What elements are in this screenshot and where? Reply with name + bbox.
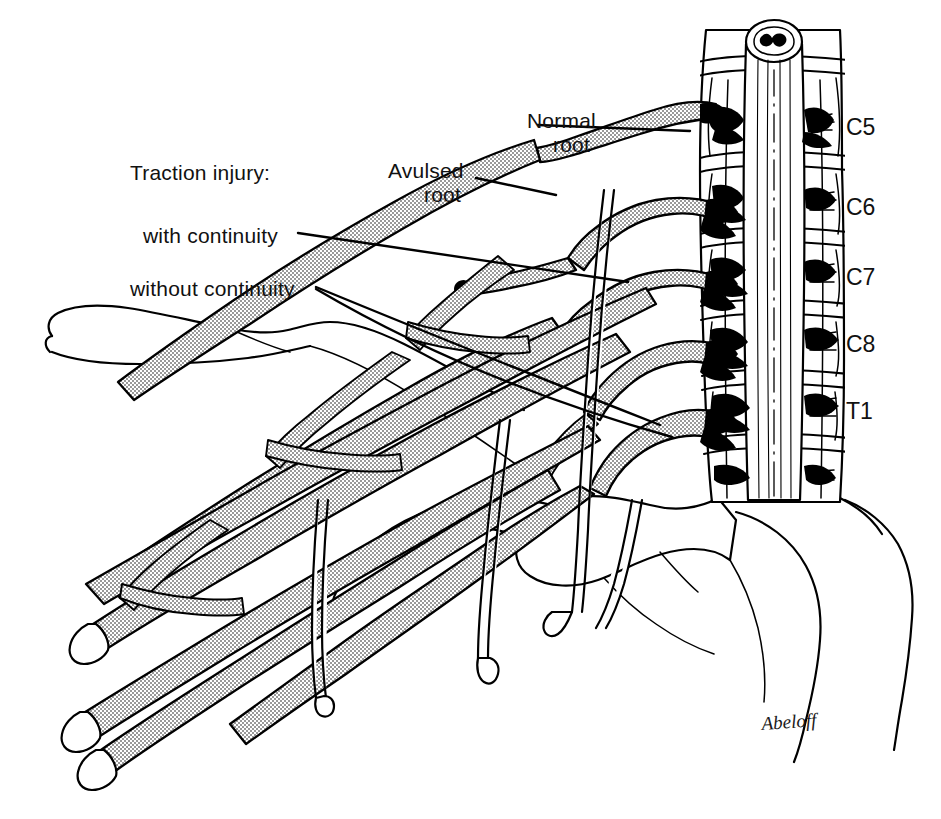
label-without-continuity: without continuity: [129, 277, 295, 300]
vertebra-label-t1: T1: [846, 398, 873, 424]
vertebra-label-c7: C7: [846, 264, 875, 290]
label-normal-root-line1: Normal: [527, 109, 596, 132]
label-avulsed-root-line2: root: [424, 183, 461, 206]
leader-avulsed-root: [476, 178, 556, 195]
traction-injury-heading: Traction injury:: [130, 161, 270, 184]
label-with-continuity: with continuity: [142, 224, 278, 247]
artist-signature: Abeloff: [759, 709, 820, 734]
vertebra-label-c6: C6: [846, 194, 875, 220]
label-normal-root-line2: root: [553, 133, 590, 156]
illustration-canvas: Traction injury: with continuity without…: [0, 0, 941, 819]
label-avulsed-root-line1: Avulsed: [388, 159, 464, 182]
spinal-cord: [744, 20, 805, 500]
vertebra-label-c5: C5: [846, 114, 875, 140]
vertebra-label-c8: C8: [846, 331, 875, 357]
brachial-plexus-figure: Traction injury: with continuity without…: [0, 0, 941, 819]
